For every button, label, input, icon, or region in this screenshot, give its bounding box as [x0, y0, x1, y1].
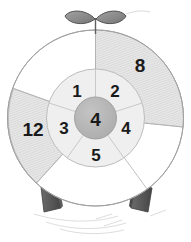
hub-label: 4 — [90, 109, 101, 130]
motion-lines — [34, 210, 166, 234]
outer-label-12: 12 — [22, 119, 43, 140]
inner-label-4: 4 — [121, 119, 131, 138]
inner-label-1: 1 — [72, 82, 81, 101]
fraction-wheel-figure: 8 12 1 2 4 5 3 4 — [0, 0, 191, 242]
outer-label-8: 8 — [135, 55, 146, 76]
inner-label-2: 2 — [110, 82, 119, 101]
figure-stage: 8 12 1 2 4 5 3 4 — [0, 0, 191, 242]
leaf-right-icon — [96, 11, 126, 24]
inner-label-3: 3 — [59, 119, 68, 138]
leaf-wisp — [126, 11, 150, 14]
leaf-left-icon — [65, 11, 95, 24]
inner-label-5: 5 — [91, 146, 100, 165]
